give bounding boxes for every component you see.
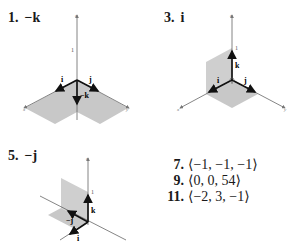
svg-text:−j: −j xyxy=(66,216,74,225)
svg-text:1: 1 xyxy=(235,45,238,51)
answer-7: 7.⟨−1, −1, −1⟩ xyxy=(162,156,258,173)
svg-text:1: 1 xyxy=(71,47,74,53)
svg-text:j: j xyxy=(243,76,247,85)
svg-text:x: x xyxy=(176,107,180,112)
answer-number: 9. xyxy=(162,173,184,189)
answer-number: 11. xyxy=(162,189,184,205)
answer-9: 9.⟨0, 0, 54⟩ xyxy=(162,172,241,189)
svg-text:1: 1 xyxy=(91,189,94,195)
svg-text:y: y xyxy=(283,107,287,112)
figure-5: 1 z −j i k xyxy=(40,156,126,243)
svg-text:k: k xyxy=(91,206,96,215)
svg-text:−k: −k xyxy=(80,91,90,100)
svg-text:z: z xyxy=(74,13,77,18)
svg-text:j: j xyxy=(88,75,92,84)
svg-text:i: i xyxy=(77,234,80,243)
answer-number: 7. xyxy=(162,157,184,173)
svg-text:i: i xyxy=(61,75,64,84)
figure-3: 1 z x y i j k xyxy=(176,13,287,112)
answer-value: ⟨−1, −1, −1⟩ xyxy=(188,157,258,172)
svg-text:x: x xyxy=(22,107,26,112)
svg-text:z: z xyxy=(229,13,232,18)
answer-value: ⟨−2, 3, −1⟩ xyxy=(188,189,250,204)
answer-11: 11.⟨−2, 3, −1⟩ xyxy=(162,188,250,205)
figure-1: 1 z x y i j −k xyxy=(22,13,129,124)
svg-text:z: z xyxy=(85,156,88,161)
figures-canvas: 1 z x y i j −k 1 z x y i j k 1 z xyxy=(0,0,293,243)
answer-value: ⟨0, 0, 54⟩ xyxy=(188,173,241,188)
svg-text:k: k xyxy=(235,61,240,70)
